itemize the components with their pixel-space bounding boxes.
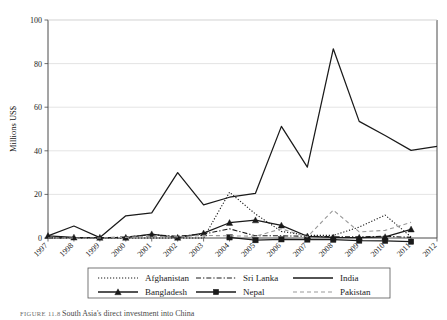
legend-item-bangladesh[interactable]: Bangladesh — [98, 287, 187, 297]
x-tick-label-2001: 2001 — [135, 241, 153, 259]
series-line-afghanistan — [48, 192, 411, 238]
x-tick-label-1998: 1998 — [58, 241, 76, 259]
marker-nepal-2010 — [382, 238, 387, 243]
line-chart: 020406080100 199719981999200020012002200… — [0, 0, 447, 320]
x-tick-label-2004: 2004 — [213, 241, 231, 259]
legend-item-afghanistan[interactable]: Afghanistan — [98, 273, 189, 283]
x-tick-label-2012: 2012 — [421, 241, 439, 259]
y-tick-label-40: 40 — [34, 147, 42, 156]
x-tick-label-2009: 2009 — [343, 241, 361, 259]
axes — [48, 20, 437, 238]
caption-lead: FIGURE 11.8 — [20, 310, 61, 317]
marker-nepal-2006 — [279, 237, 284, 242]
marker-nepal-2007 — [305, 237, 310, 242]
axis-ticks — [45, 20, 438, 242]
x-tick-label-2008: 2008 — [317, 241, 335, 259]
marker-nepal-2005 — [253, 237, 258, 242]
marker-nepal-2009 — [357, 238, 362, 243]
legend-item-pakistan[interactable]: Pakistan — [293, 287, 371, 297]
series-line-india — [48, 49, 437, 238]
x-tick-label-2000: 2000 — [110, 241, 128, 259]
x-tick-label-2007: 2007 — [291, 241, 309, 259]
marker-nepal-2011 — [408, 239, 413, 244]
y-axis-title: Millions US$ — [8, 106, 18, 152]
y-tick-label-80: 80 — [34, 60, 42, 69]
y-axis-tick-labels: 020406080100 — [30, 16, 42, 243]
marker-nepal-2008 — [331, 237, 336, 242]
legend-item-nepal[interactable]: Nepal — [196, 287, 265, 297]
figure-container: 020406080100 199719981999200020012002200… — [0, 0, 447, 320]
legend-label-bangladesh: Bangladesh — [145, 287, 187, 297]
x-tick-label-2006: 2006 — [265, 241, 283, 259]
gridlines — [48, 20, 437, 194]
x-tick-label-1997: 1997 — [32, 241, 50, 259]
legend-label-india: India — [340, 273, 359, 283]
legend-item-sri-lanka[interactable]: Sri Lanka — [196, 273, 278, 283]
y-axis-title-text: Millions US$ — [8, 106, 18, 152]
y-tick-label-20: 20 — [34, 190, 42, 199]
y-tick-label-60: 60 — [34, 103, 42, 112]
legend-label-nepal: Nepal — [243, 287, 265, 297]
caption-body: South Asia's direct investment into Chin… — [62, 309, 195, 318]
legend-label-sri-lanka: Sri Lanka — [243, 273, 278, 283]
x-tick-label-2003: 2003 — [187, 241, 205, 259]
series-india — [48, 49, 437, 238]
series-layer — [45, 49, 437, 245]
legend-label-pakistan: Pakistan — [340, 287, 371, 297]
legend-label-afghanistan: Afghanistan — [145, 273, 189, 283]
chart-legend: AfghanistanSri LankaIndiaBangladeshNepal… — [88, 268, 390, 298]
y-tick-label-100: 100 — [30, 16, 42, 25]
legend-item-india[interactable]: India — [293, 273, 359, 283]
x-tick-label-2002: 2002 — [161, 241, 179, 259]
x-tick-label-2005: 2005 — [239, 241, 257, 259]
x-axis-tick-labels: 1997199819992000200120022003200420052006… — [32, 241, 439, 259]
legend-marker-nepal — [213, 289, 218, 294]
figure-caption: FIGURE 11.8South Asia's direct investmen… — [20, 309, 195, 318]
series-afghanistan — [48, 192, 411, 238]
marker-bangladesh-2011 — [408, 226, 414, 232]
x-tick-label-1999: 1999 — [84, 241, 102, 259]
